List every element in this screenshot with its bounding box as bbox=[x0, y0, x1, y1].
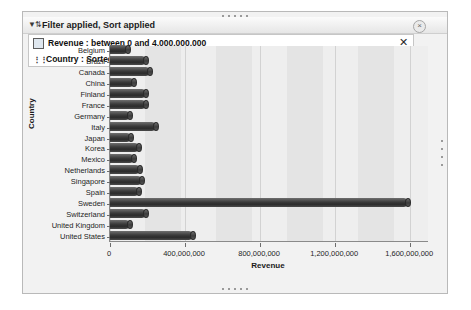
filter-sort-icon: ▼⇅ bbox=[28, 21, 41, 29]
bar-cap bbox=[131, 154, 137, 163]
bar[interactable] bbox=[110, 198, 408, 207]
y-axis-tick-label: Korea bbox=[85, 144, 105, 153]
bar[interactable] bbox=[110, 56, 146, 65]
bar[interactable] bbox=[110, 122, 156, 131]
bar-cap bbox=[136, 187, 142, 196]
bar[interactable] bbox=[110, 220, 130, 229]
bar-cap bbox=[128, 133, 134, 142]
bar[interactable] bbox=[110, 176, 142, 185]
x-axis-tick bbox=[410, 243, 411, 247]
bar-cap bbox=[127, 111, 133, 120]
y-axis-tick-label: Belgium bbox=[78, 46, 105, 55]
bar-chart: Country Revenue BelgiumBrazilCanadaChina… bbox=[23, 34, 449, 294]
bar-cap bbox=[137, 165, 143, 174]
bar[interactable] bbox=[110, 45, 128, 54]
bar-cap bbox=[143, 89, 149, 98]
x-gridline bbox=[185, 46, 186, 241]
y-axis-tick-label: Italy bbox=[91, 123, 105, 132]
y-axis-tick-label: Singapore bbox=[71, 177, 105, 186]
x-axis-tick-label: 1,600,000,000 bbox=[385, 249, 433, 258]
y-axis-tick-label: Japan bbox=[85, 134, 105, 143]
bar-cap bbox=[139, 176, 145, 185]
bar[interactable] bbox=[110, 78, 134, 87]
plot-band bbox=[287, 46, 322, 241]
bar[interactable] bbox=[110, 209, 146, 218]
x-axis-tick-label: 1,200,000,000 bbox=[310, 249, 358, 258]
x-gridline bbox=[335, 46, 336, 241]
x-axis-tick-label: 800,000,000 bbox=[238, 249, 280, 258]
y-axis-tick-label: United Kingdom bbox=[52, 221, 105, 230]
plot-band bbox=[216, 46, 251, 241]
bar[interactable] bbox=[110, 133, 131, 142]
close-icon[interactable]: × bbox=[413, 20, 426, 33]
bar[interactable] bbox=[110, 111, 130, 120]
x-axis-tick bbox=[335, 243, 336, 247]
y-axis-tick-label: United States bbox=[60, 232, 105, 241]
bar[interactable] bbox=[110, 143, 139, 152]
bar-cap bbox=[153, 122, 159, 131]
y-axis-tick-label: France bbox=[82, 101, 105, 110]
bar-cap bbox=[143, 100, 149, 109]
y-axis-tick-label: Mexico bbox=[81, 155, 105, 164]
x-axis-tick bbox=[110, 243, 111, 247]
bar-cap bbox=[131, 78, 137, 87]
y-axis-tick-label: China bbox=[85, 79, 105, 88]
bar[interactable] bbox=[110, 187, 139, 196]
x-axis-tick bbox=[260, 243, 261, 247]
y-axis-tick-label: Switzerland bbox=[66, 210, 105, 219]
bar-cap bbox=[136, 143, 142, 152]
bar-cap bbox=[143, 209, 149, 218]
x-gridline bbox=[410, 46, 411, 241]
bar[interactable] bbox=[110, 165, 140, 174]
bar[interactable] bbox=[110, 67, 150, 76]
y-axis-tick-label: Spain bbox=[86, 188, 105, 197]
y-axis-tick-label: Netherlands bbox=[65, 166, 105, 175]
bar-cap bbox=[125, 45, 131, 54]
bar[interactable] bbox=[110, 154, 134, 163]
plot-area bbox=[109, 46, 428, 242]
plot-band bbox=[358, 46, 393, 241]
y-axis-tick-label: Finland bbox=[80, 90, 105, 99]
bar[interactable] bbox=[110, 89, 146, 98]
x-axis-tick bbox=[185, 243, 186, 247]
y-axis-tick-label: Canada bbox=[79, 68, 105, 77]
y-axis-tick-label: Brazil bbox=[86, 57, 105, 66]
chart-window: ▼⇅ Filter applied, Sort applied × Revenu… bbox=[22, 11, 448, 294]
bar-cap bbox=[143, 56, 149, 65]
bar[interactable] bbox=[110, 100, 146, 109]
titlebar-title: Filter applied, Sort applied bbox=[42, 20, 155, 30]
y-axis-title: Country bbox=[27, 98, 36, 129]
bar[interactable] bbox=[110, 231, 193, 240]
titlebar: ▼⇅ Filter applied, Sort applied × bbox=[23, 17, 447, 34]
x-axis-tick-label: 0 bbox=[107, 249, 111, 258]
x-gridline bbox=[260, 46, 261, 241]
bar-cap bbox=[127, 220, 133, 229]
y-axis-tick-label: Sweden bbox=[78, 199, 105, 208]
x-axis-tick-label: 400,000,000 bbox=[163, 249, 205, 258]
y-axis-tick-label: Germany bbox=[74, 112, 105, 121]
x-axis-title: Revenue bbox=[109, 261, 427, 270]
bar-cap bbox=[190, 231, 196, 240]
